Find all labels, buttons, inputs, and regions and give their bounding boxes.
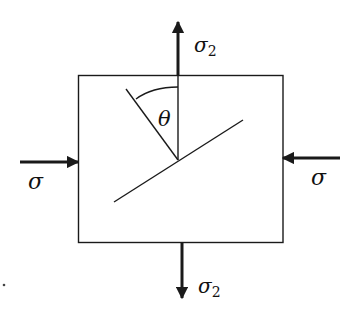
angle-label: θ [158, 107, 171, 131]
stress-diagram: θ σ2 σ2 σ σ [0, 0, 358, 323]
angle-arc [136, 87, 178, 99]
top-stress-label: σ2 [194, 33, 217, 59]
right-stress-label: σ [311, 165, 327, 190]
bottom-stress-label: σ2 [198, 274, 221, 300]
scan-artifact [3, 284, 6, 287]
left-stress-label: σ [28, 169, 44, 194]
